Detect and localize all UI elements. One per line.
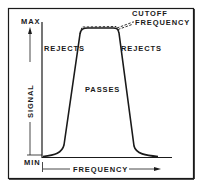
arrow-up-icon <box>28 27 32 34</box>
arrow-right-icon <box>154 167 161 171</box>
bandpass-diagram: MAX MIN SIGNAL FREQUENCY CUTOFF FREQUENC… <box>0 0 202 187</box>
reject-left-label: REJECTS <box>44 44 85 53</box>
y-axis-label: SIGNAL <box>26 84 35 118</box>
pass-label: PASSES <box>85 85 120 94</box>
cutoff-label-line1: CUTOFF <box>132 9 168 18</box>
y-min-label: MIN <box>24 158 40 167</box>
cutoff-label-line2: FREQUENCY <box>135 18 190 27</box>
x-axis-label: FREQUENCY <box>73 165 128 174</box>
y-max-label: MAX <box>21 17 40 26</box>
reject-right-label: REJECTS <box>121 44 162 53</box>
